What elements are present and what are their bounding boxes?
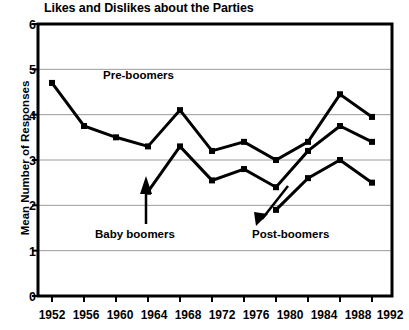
data-point-1988 — [337, 91, 343, 97]
data-point-1952 — [49, 80, 55, 86]
data-point-1984 — [305, 148, 311, 154]
series-pre-boomers — [49, 80, 375, 163]
data-point-1976 — [241, 166, 247, 172]
post-boomers-arrow-icon — [254, 186, 288, 226]
data-point-1968 — [177, 143, 183, 149]
baby-boomers-arrow-icon — [140, 176, 152, 224]
data-point-1956 — [81, 123, 87, 129]
annotation-arrows — [140, 176, 288, 226]
data-point-1972 — [209, 148, 215, 154]
series-line — [276, 160, 372, 210]
data-point-1984 — [305, 139, 311, 145]
data-point-1992 — [369, 139, 375, 145]
chart-figure: Likes and Dislikes about the Parties Mea… — [0, 0, 409, 330]
data-point-1992 — [369, 114, 375, 120]
data-point-1972 — [209, 177, 215, 183]
data-point-1980 — [273, 157, 279, 163]
data-point-1964 — [145, 143, 151, 149]
data-point-1976 — [241, 139, 247, 145]
data-point-1988 — [337, 157, 343, 163]
data-point-1960 — [113, 134, 119, 140]
axis-ticks — [32, 24, 372, 302]
data-series-group — [49, 80, 375, 213]
data-point-1988 — [337, 123, 343, 129]
data-point-1984 — [305, 175, 311, 181]
data-point-1980 — [273, 184, 279, 190]
plot-area — [0, 0, 409, 330]
data-point-1980 — [273, 207, 279, 213]
data-point-1968 — [177, 107, 183, 113]
series-post-boomers — [273, 157, 375, 213]
data-point-1992 — [369, 180, 375, 186]
